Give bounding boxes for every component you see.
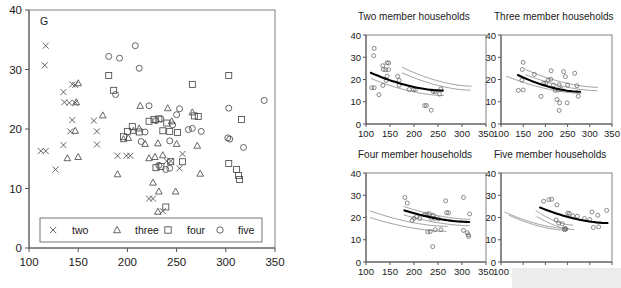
circle-marker [521,60,525,64]
triangle-marker [113,226,120,232]
panel-x-tick-label-two-member: 100 [358,128,374,139]
circle-marker [516,88,520,92]
circle-marker [177,106,183,112]
panel-x-tick-label-two-member: 150 [382,128,398,139]
circle-marker [377,93,381,97]
panel-x-tick-label-two-member: 200 [406,128,422,139]
panel-x-tick-label-five-member: 100 [493,266,509,277]
legend-label-three: three [135,224,159,236]
panel-x-tick-label-three-member: 350 [604,128,620,139]
triangle-marker [114,171,121,177]
main-y-tick-label: 30 [9,64,22,76]
panel-y-tick-label-four-member: 40 [350,168,361,179]
ci-curve-four-member [370,218,447,232]
panel-frame-three-member [501,35,612,124]
figure-root: 010203040100150200250300350Gtwothreefour… [0,0,621,288]
fit-curve-five-member [540,207,607,223]
panel-y-tick-label-three-member: 10 [485,96,496,107]
circle-marker [550,197,554,201]
square-marker [226,161,232,167]
main-x-tick-label: 300 [216,256,235,268]
triangle-marker [75,154,82,160]
circle-marker [596,213,600,217]
panel-y-tick-label-five-member: 30 [485,190,496,201]
panel-title-two-member: Two member households [358,11,470,22]
circle-marker [381,84,385,88]
circle-marker [562,70,566,74]
square-marker [226,72,232,78]
circle-marker [461,195,465,199]
circle-marker [396,74,400,78]
circle-marker [520,67,524,71]
square-marker [180,159,186,165]
circle-marker [468,212,472,216]
legend-label-five: five [238,224,255,236]
triangle-marker [189,109,196,115]
panel-four-member: Four member households010203040100150200… [350,149,494,277]
circle-marker [372,86,376,90]
watermark-block [512,268,621,288]
circle-marker [405,201,409,205]
circle-marker [403,195,407,199]
circle-marker [132,43,138,49]
panel-y-tick-label-four-member: 30 [350,190,361,201]
square-marker [160,128,166,134]
circle-marker [227,136,233,142]
triangle-marker [172,188,179,194]
circle-marker [136,65,142,71]
main-x-tick-label: 200 [118,256,137,268]
triangle-marker [150,179,157,185]
figure-canvas: 010203040100150200250300350Gtwothreefour… [0,0,621,288]
square-marker [136,129,142,135]
main-series-five [106,43,267,173]
main-series-three [64,80,203,215]
panel-y-tick-label-five-member: 10 [485,234,496,245]
main-x-tick-label: 150 [69,256,88,268]
main-x-tick-label: 250 [167,256,186,268]
circle-marker [106,53,112,59]
panel-y-tick-label-two-member: 10 [350,96,361,107]
circle-marker [591,226,595,230]
square-marker [165,227,171,233]
circle-marker [576,94,580,98]
triangle-marker [160,152,167,158]
fit-curve-two-member [371,73,443,91]
panel-x-tick-label-four-member: 250 [430,266,446,277]
panel-y-tick-label-two-member: 30 [350,52,361,63]
panel-y-tick-label-three-member: 30 [485,52,496,63]
circle-marker [142,129,148,135]
panel-y-tick-label-four-member: 10 [350,234,361,245]
circle-marker [372,46,376,50]
circle-marker [461,228,465,232]
panel-points-five-member [542,197,609,231]
circle-marker [198,128,204,134]
panel-five-member: Five member households010203040100150200… [485,149,620,277]
circle-marker [546,78,550,82]
panel-x-tick-label-three-member: 100 [493,128,509,139]
circle-marker [431,245,435,249]
ci-curve-two-member [402,67,472,86]
circle-marker [557,108,561,112]
circle-marker [521,88,525,92]
circle-marker [605,208,609,212]
circle-marker [146,103,152,109]
circle-marker [597,225,601,229]
triangle-marker [194,142,201,148]
square-marker [106,72,112,78]
circle-marker [573,71,577,75]
panel-x-tick-label-three-member: 250 [560,128,576,139]
circle-marker [542,199,546,203]
panel-title-three-member: Three member households [494,11,614,22]
panel-corner-label: G [40,15,48,27]
triangle-marker [173,140,180,146]
circle-marker [174,112,180,118]
main-plot-frame [29,10,275,248]
square-marker [167,128,173,134]
square-marker [163,204,169,210]
panel-x-tick-label-two-member: 350 [478,128,494,139]
main-y-tick-label: 40 [9,4,22,16]
legend-label-two: two [72,224,89,236]
triangle-marker [156,188,163,194]
circle-marker [217,227,223,233]
circle-marker [226,105,232,111]
